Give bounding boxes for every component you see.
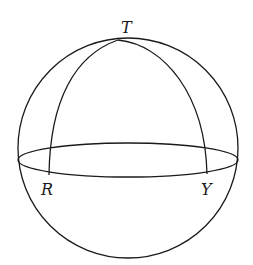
label-r: R [40, 180, 53, 199]
sphere-diagram: T R Y [0, 0, 253, 265]
label-t: T [121, 18, 133, 37]
label-y: Y [201, 180, 213, 199]
meridian-t-to-r [49, 40, 118, 175]
